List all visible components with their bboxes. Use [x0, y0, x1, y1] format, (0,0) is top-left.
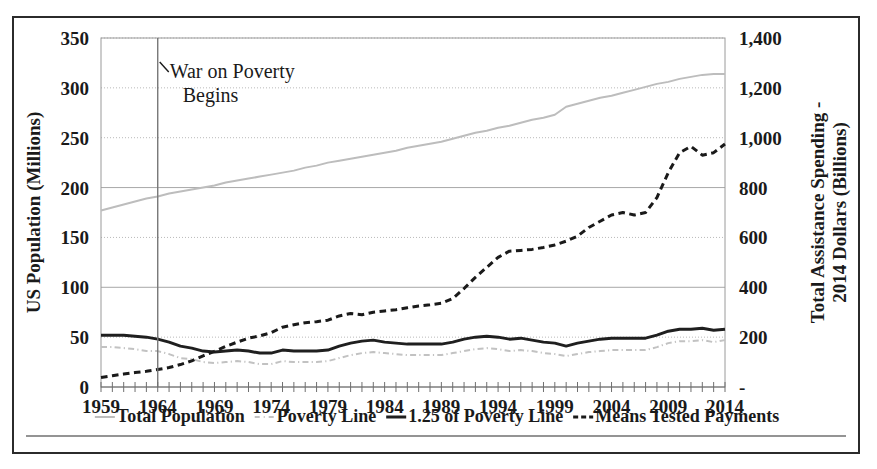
legend-label-1: Poverty Line	[277, 406, 376, 426]
y-left-tick-label-150: 150	[61, 227, 90, 248]
y-right-tick-label-3: 600	[739, 227, 768, 248]
y-right-axis-title-line2: 2014 Dollars (Billions)	[829, 122, 851, 303]
y-right-tick-label-6: 1,200	[739, 78, 782, 99]
axis-layer: 1959196419691974197919841989199419992004…	[23, 28, 851, 417]
y-left-axis-title: US Population (Millions)	[23, 112, 45, 314]
legend-label-0: Total Population	[117, 406, 245, 426]
y-left-tick-label-200: 200	[61, 178, 90, 199]
legend-label-2: 1.25 of Poverty Line	[408, 406, 563, 426]
legend-label-3: Means Tested Payments	[595, 406, 779, 426]
annotation-label-line2: Begins	[183, 84, 239, 107]
y-left-tick-label-50: 50	[70, 327, 89, 348]
y-right-axis-title-line1: Total Assistance Spending -	[807, 102, 828, 324]
x-tick-label-1959: 1959	[82, 396, 120, 417]
y-left-tick-label-250: 250	[61, 128, 90, 149]
series-line-means-tested-payments	[101, 144, 725, 378]
legend-item-1-25-of-poverty-line: 1.25 of Poverty Line	[386, 406, 563, 426]
y-left-tick-label-100: 100	[61, 277, 90, 298]
y-right-tick-label-7: 1,400	[739, 28, 782, 49]
y-left-tick-label-350: 350	[61, 28, 90, 49]
annotation-label-line1: War on Poverty	[170, 60, 295, 83]
y-right-tick-label-5: 1,000	[739, 128, 782, 149]
y-right-tick-label-4: 800	[739, 178, 768, 199]
chart-canvas: War on PovertyBegins 1959196419691974197…	[14, 18, 858, 452]
y-right-tick-label-0: -	[739, 377, 745, 398]
y-left-tick-label-0: 0	[80, 377, 90, 398]
figure-frame: War on PovertyBegins 1959196419691974197…	[12, 16, 860, 454]
y-right-tick-label-2: 400	[739, 277, 768, 298]
event-annotation-layer: War on PovertyBegins	[158, 38, 295, 387]
series-layer	[101, 74, 725, 378]
event-leader-war-on-poverty	[160, 62, 169, 72]
y-left-tick-label-300: 300	[61, 78, 90, 99]
y-right-axis-title: Total Assistance Spending -2014 Dollars …	[807, 102, 851, 324]
chart-legend: Total PopulationPoverty Line1.25 of Pove…	[26, 406, 846, 436]
y-right-tick-label-1: 200	[739, 327, 768, 348]
legend-item-means-tested-payments: Means Tested Payments	[573, 406, 779, 426]
legend-item-total-population: Total Population	[95, 406, 245, 426]
